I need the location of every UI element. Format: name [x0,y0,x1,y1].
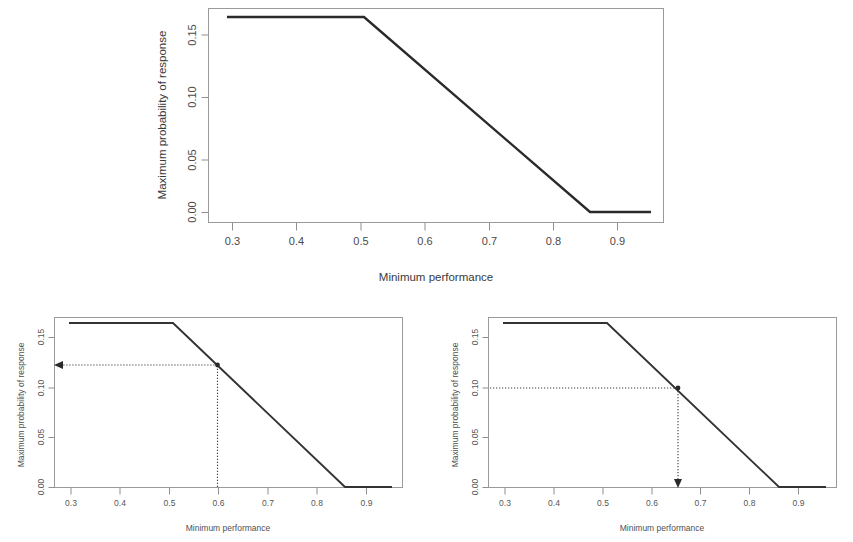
bottom-left-chart-xtick-3: 0.6 [213,498,225,508]
bottom-left-chart-xtick-5: 0.8 [311,498,323,508]
top-chart-panel: 0.00 0.05 0.10 0.15 0.3 0.4 0.5 0.6 0.7 … [0,0,853,295]
bottom-left-chart-ytick-0: 0.00 [36,478,46,495]
bottom-right-chart-xtick-0: 0.3 [499,498,511,508]
bottom-right-chart-xtick-2: 0.5 [597,498,609,508]
top-chart-xtick-3: 0.6 [417,235,432,247]
bottom-left-chart-ytick-3: 0.15 [36,328,46,345]
top-chart-xtick-5: 0.8 [546,235,561,247]
top-chart-ylabel: Maximum probability of response [156,31,168,200]
bottom-left-chart-panel: 0.00 0.05 0.10 0.15 0.3 0.4 0.5 0.6 0.7 … [0,295,425,542]
bottom-left-chart-xlabel: Minimum performance [186,523,271,533]
bottom-right-chart-xtick-1: 0.4 [548,498,560,508]
top-chart-xtick-1: 0.4 [289,235,304,247]
bottom-right-annotation-curve-marker [676,386,681,391]
top-chart-xtick-2: 0.5 [353,235,368,247]
bottom-right-chart-svg: 0.00 0.05 0.10 0.15 0.3 0.4 0.5 0.6 0.7 … [428,295,853,542]
bottom-left-chart-ytick-1: 0.05 [36,428,46,445]
top-chart-background [0,0,853,295]
bottom-right-chart-ytick-1: 0.05 [470,428,480,445]
top-chart-ytick-0: 0.00 [186,201,198,222]
top-chart-xlabel: Minimum performance [379,271,493,283]
bottom-left-chart-xtick-1: 0.4 [114,498,126,508]
bottom-right-chart-xtick-3: 0.6 [646,498,658,508]
top-chart-ytick-3: 0.15 [186,24,198,45]
bottom-left-chart-ytick-2: 0.10 [36,379,46,396]
top-chart-xtick-6: 0.9 [610,235,625,247]
bottom-right-chart-background [428,295,853,542]
bottom-right-chart-ytick-2: 0.10 [470,379,480,396]
top-chart-xtick-0: 0.3 [225,235,240,247]
bottom-right-chart-xtick-5: 0.8 [744,498,756,508]
top-chart-ytick-1: 0.05 [186,149,198,170]
bottom-left-chart-svg: 0.00 0.05 0.10 0.15 0.3 0.4 0.5 0.6 0.7 … [0,295,425,542]
bottom-left-chart-xtick-2: 0.5 [164,498,176,508]
bottom-left-chart-xtick-6: 0.9 [361,498,373,508]
bottom-right-chart-ytick-0: 0.00 [470,478,480,495]
top-chart-xtick-4: 0.7 [482,235,497,247]
bottom-left-chart-ylabel: Maximum probability of response [16,342,26,467]
bottom-right-chart-xtick-4: 0.7 [695,498,707,508]
bottom-left-chart-xtick-4: 0.7 [262,498,274,508]
bottom-right-chart-ytick-3: 0.15 [470,328,480,345]
bottom-right-chart-ylabel: Maximum probability of response [450,342,460,467]
bottom-right-chart-xtick-6: 0.9 [793,498,805,508]
bottom-left-chart-xtick-0: 0.3 [65,498,77,508]
bottom-right-chart-xlabel: Minimum performance [620,523,705,533]
top-chart-svg: 0.00 0.05 0.10 0.15 0.3 0.4 0.5 0.6 0.7 … [0,0,853,295]
bottom-right-chart-panel: 0.00 0.05 0.10 0.15 0.3 0.4 0.5 0.6 0.7 … [428,295,853,542]
bottom-left-annotation-curve-marker [215,363,220,368]
top-chart-ytick-2: 0.10 [186,86,198,107]
